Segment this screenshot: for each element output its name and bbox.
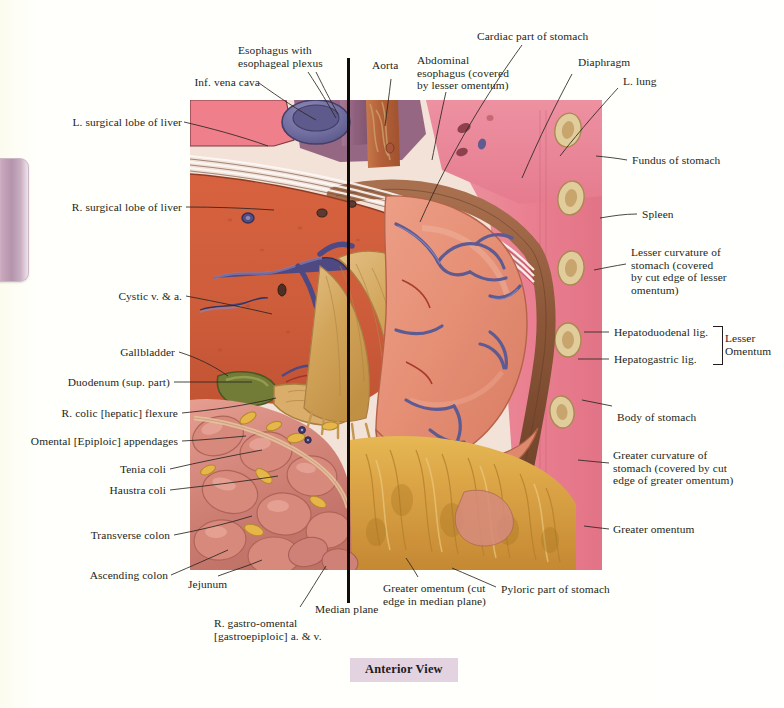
label-cystic-v-and-a: Cystic v. & a. [78, 290, 182, 303]
label-gallbladder: Gallbladder [86, 346, 175, 359]
lesser-omentum-bracket [713, 326, 723, 365]
label-r-surgical-lobe-of-liver: R. surgical lobe of liver [36, 201, 182, 214]
sidebar-bookmark-tab[interactable] [0, 158, 29, 282]
label-hepatoduodenal-lig: Hepatoduodenal lig. [614, 326, 708, 339]
label-l-lung: L. lung [623, 75, 657, 88]
label-greater-curvature-of-stomach: Greater curvature of stomach (covered by… [613, 449, 733, 487]
label-lesser-omentum: Lesser Omentum [725, 332, 771, 358]
label-r-colic-hepatic-flexure: R. colic [hepatic] flexure [16, 407, 178, 420]
label-transverse-colon: Transverse colon [54, 529, 170, 542]
label-greater-omentum: Greater omentum [613, 523, 695, 536]
label-pyloric-part-of-stomach: Pyloric part of stomach [501, 583, 610, 596]
label-greater-omentum-cut: Greater omentum (cut edge in median plan… [383, 582, 486, 607]
label-jejunum: Jejunum [188, 578, 227, 591]
label-cardiac-part-of-stomach: Cardiac part of stomach [477, 30, 588, 43]
label-tenia-coli: Tenia coli [78, 463, 166, 476]
label-r-gastro-omental: R. gastro-omental [gastroepiploic] a. & … [214, 617, 322, 642]
label-omental-epiploic-appendages: Omental [Epiploic] appendages [8, 435, 178, 448]
page-background: Inf. vena cava Esophagus with esophageal… [0, 0, 784, 708]
label-abdominal-esophagus: Abdominal esophagus (covered by lesser o… [417, 54, 509, 92]
label-esophagus-with-esophageal-plexus: Esophagus with esophageal plexus [238, 44, 323, 69]
label-haustra-coli: Haustra coli [76, 484, 166, 497]
label-aorta: Aorta [372, 59, 398, 72]
anatomy-illustration [190, 100, 602, 570]
label-hepatogastric-lig: Hepatogastric lig. [614, 353, 697, 366]
label-ascending-colon: Ascending colon [56, 569, 168, 582]
label-inf-vena-cava: Inf. vena cava [112, 76, 260, 89]
label-body-of-stomach: Body of stomach [617, 411, 696, 424]
median-plane-line [347, 58, 350, 603]
label-lesser-curvature-of-stomach: Lesser curvature of stomach (covered by … [631, 246, 727, 296]
label-l-surgical-lobe-of-liver: L. surgical lobe of liver [36, 116, 182, 129]
label-spleen: Spleen [642, 208, 674, 221]
label-median-plane: Median plane [315, 603, 379, 616]
label-diaphragm: Diaphragm [578, 56, 630, 69]
label-duodenum-sup-part: Duodenum (sup. part) [28, 376, 170, 389]
label-fundus-of-stomach: Fundus of stomach [632, 154, 720, 167]
anterior-view-caption: Anterior View [350, 658, 458, 682]
